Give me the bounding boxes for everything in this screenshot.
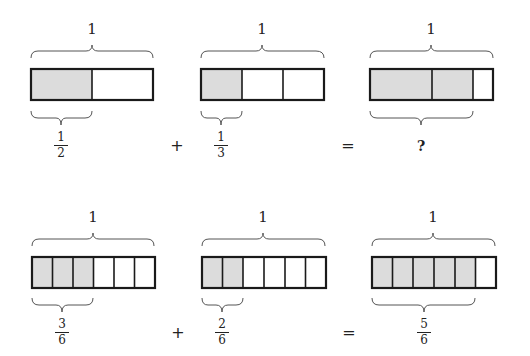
part-brace	[31, 111, 92, 125]
part-brace	[372, 298, 475, 312]
whole-label: 1	[248, 208, 278, 226]
whole-brace	[32, 233, 154, 246]
plus-sign: +	[167, 136, 187, 155]
whole-label: 1	[247, 20, 277, 38]
bar-five-sixths	[372, 233, 496, 312]
unknown-result: ?	[411, 138, 431, 154]
whole-brace	[202, 233, 325, 246]
part-brace	[370, 111, 473, 125]
whole-brace	[372, 233, 495, 246]
numerator: 1	[54, 131, 68, 146]
whole-brace	[370, 45, 493, 58]
fraction-two-sixths: 2 6	[210, 318, 234, 347]
equals-sign: =	[338, 136, 358, 155]
fraction-one-third: 1 3	[209, 131, 233, 160]
numerator: 3	[55, 318, 69, 333]
bar-one-third	[201, 45, 324, 125]
whole-label: 1	[418, 208, 448, 226]
bar-one-half	[31, 45, 153, 125]
whole-brace	[31, 45, 153, 58]
fraction-five-sixths: 5 6	[412, 318, 436, 347]
numerator: 5	[417, 318, 431, 333]
shaded-part	[370, 69, 473, 100]
bar-three-sixths	[32, 233, 155, 312]
part-brace	[202, 298, 243, 312]
whole-label: 1	[77, 20, 107, 38]
fraction-one-half: 1 2	[49, 131, 73, 160]
equals-sign: =	[339, 323, 359, 342]
fraction-diagram	[0, 0, 530, 356]
shaded-part	[372, 257, 475, 288]
shaded-part	[32, 257, 93, 288]
shaded-part	[201, 69, 242, 100]
shaded-part	[31, 69, 92, 100]
denominator: 3	[209, 146, 233, 160]
fraction-three-sixths: 3 6	[50, 318, 74, 347]
numerator: 2	[215, 318, 229, 333]
plus-sign: +	[168, 323, 188, 342]
denominator: 6	[50, 333, 74, 347]
denominator: 6	[210, 333, 234, 347]
whole-label: 1	[78, 208, 108, 226]
part-brace	[32, 298, 93, 312]
numerator: 1	[214, 131, 228, 146]
bar-two-sixths	[202, 233, 326, 312]
denominator: 2	[49, 146, 73, 160]
whole-label: 1	[416, 20, 446, 38]
denominator: 6	[412, 333, 436, 347]
bar-result-unknown	[370, 45, 493, 125]
whole-brace	[201, 45, 324, 58]
part-brace	[201, 111, 242, 125]
